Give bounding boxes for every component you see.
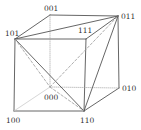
edge-101-000 [15,39,50,87]
vertex-label-100: 100 [6,116,21,125]
vertex-label-110: 110 [80,116,95,125]
vertex-label-011: 011 [121,12,135,21]
vertex-labels: 001011101111000010100110 [5,4,137,125]
vertex-label-000: 000 [44,93,59,102]
edge-011-010 [118,16,119,88]
edge-001-011 [50,15,118,16]
vertex-label-001: 001 [44,4,58,13]
vertex-label-010: 010 [122,84,137,93]
cube-edges [14,15,119,111]
edge-101-100 [14,39,15,111]
vertex-label-101: 101 [5,29,19,38]
edge-010-110 [84,88,119,111]
cube-diagram: 001011101111000010100110 [0,0,141,130]
vertex-label-111: 111 [78,26,92,35]
